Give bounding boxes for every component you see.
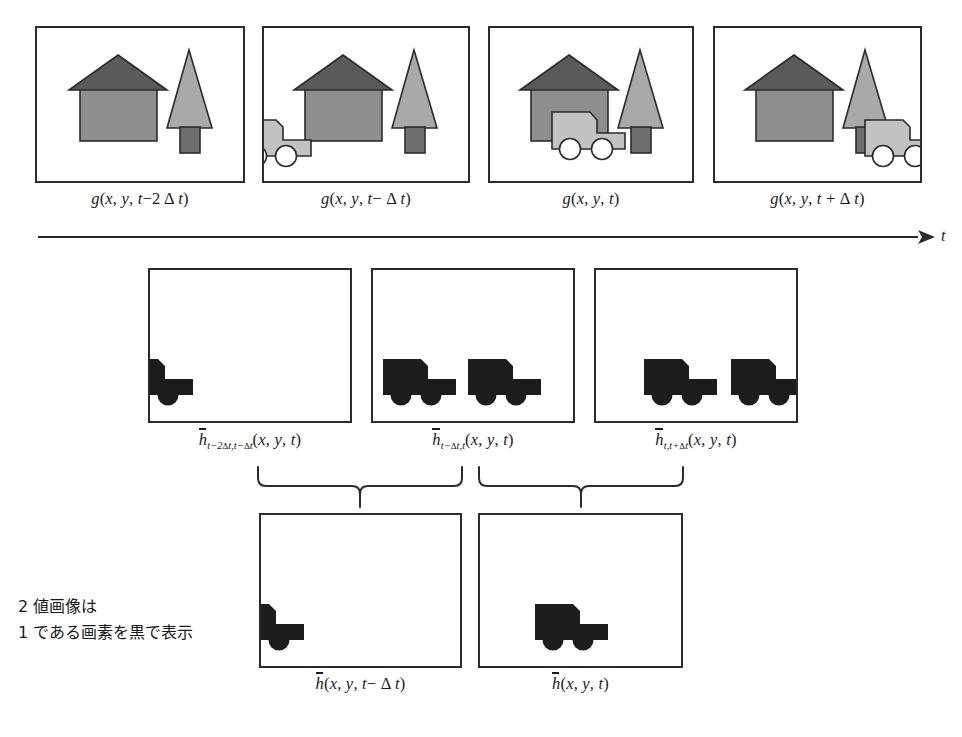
h-bar-symbol: h: [552, 674, 560, 694]
time-axis-label: t: [941, 227, 945, 245]
caption-h-tdt-t: ht−Δt,t(x, y, t): [371, 430, 575, 451]
tree-foliage: [843, 50, 888, 128]
caption-h-t: h(x, y, t): [478, 674, 683, 694]
truck-wheel: [276, 146, 297, 167]
diff-panel-h-tdt-t: [371, 268, 575, 423]
caption-text-g-t-2dt-op: −2: [143, 189, 161, 208]
tree-trunk: [180, 127, 200, 153]
h-bar-symbol: h: [655, 430, 663, 450]
house-roof: [69, 55, 167, 90]
binary-truck-blob: [731, 359, 796, 406]
scene-g-t+dt: [715, 28, 920, 181]
tree-trunk: [631, 127, 651, 153]
frame-panel-g-t+dt: [713, 26, 922, 183]
h-bar-symbol: h: [316, 674, 324, 694]
caption-h-t-dt: h(x, y, t− Δ t): [259, 674, 462, 694]
binary-scene-h-t-dt: [261, 515, 460, 666]
binary-truck-blob: [383, 359, 456, 406]
caption-text-g-t-dt-op: −: [372, 189, 382, 208]
scene-g-t-2dt: [37, 28, 243, 181]
binary-scene-h-tdt-t: [373, 270, 573, 421]
binary-scene-h-t: [480, 515, 681, 666]
binary-truck-blob: [261, 604, 304, 651]
scene-g-t: [490, 28, 692, 181]
house-wall: [756, 89, 833, 141]
binary-truck-blob: [644, 359, 717, 406]
tree-foliage: [392, 50, 437, 128]
diff-panel-h-t2dt-tdt: [148, 268, 352, 423]
result-panel-h-t: [478, 513, 683, 668]
caption-g-t+dt: g(x, y, t + Δ t): [713, 189, 922, 209]
truck-wheel: [905, 146, 921, 167]
truck: [264, 120, 311, 167]
h-bar-symbol: h: [199, 430, 207, 450]
tree-foliage: [618, 50, 663, 128]
tree-trunk: [405, 127, 425, 153]
house-roof: [745, 55, 843, 90]
truck-wheel: [592, 139, 613, 160]
diff-panel-h-t-tdt: [594, 268, 798, 423]
house-roof: [294, 55, 392, 90]
figure-canvas: g(x, y, t−2 Δ t) g(x, y, t− Δ t): [0, 0, 962, 737]
scene-g-t-dt: [264, 28, 468, 181]
binary-truck-blob: [150, 359, 193, 406]
truck-wheel: [560, 139, 581, 160]
brace-left: [258, 467, 462, 507]
caption-g-t-dt: g(x, y, t− Δ t): [262, 189, 470, 209]
binary-image-note: 2 値画像は 1 である画素を黒で表示: [18, 594, 243, 646]
frame-panel-g-t-2dt: [35, 26, 245, 183]
caption-text-h-t-dt-op: −: [367, 674, 377, 693]
brace-right: [479, 467, 683, 507]
binary-truck-blob: [468, 359, 541, 406]
binary-scene-h-t-tdt: [596, 270, 796, 421]
caption-text-g-t+dt-op: +: [826, 189, 836, 208]
caption-h-t2dt-tdt: ht−2Δt,t−Δt(x, y, t): [148, 430, 352, 451]
truck: [865, 120, 920, 167]
caption-h-t-tdt: ht,t+Δt(x, y, t): [594, 430, 798, 451]
result-panel-h-t-dt: [259, 513, 462, 668]
truck-wheel: [873, 146, 894, 167]
h-bar-symbol: h: [432, 430, 440, 450]
house-wall: [80, 89, 157, 141]
truck: [552, 112, 625, 160]
frame-panel-g-t: [488, 26, 694, 183]
caption-g-t-2dt: g(x, y, t−2 Δ t): [35, 189, 245, 209]
frame-panel-g-t-dt: [262, 26, 470, 183]
house-wall: [305, 89, 382, 141]
house-roof: [520, 55, 618, 90]
binary-truck-blob: [535, 604, 608, 651]
caption-g-t: g(x, y, t): [488, 189, 694, 209]
tree-foliage: [167, 50, 212, 128]
binary-scene-h-t2dt-tdt: [150, 270, 350, 421]
